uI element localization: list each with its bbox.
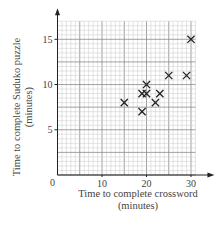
x-axis-unit: (minutes) [58, 200, 218, 212]
x-axis-title: Time to complete crossword [58, 188, 218, 200]
svg-text:0: 0 [50, 177, 55, 188]
y-axis-unit: (minutes) [23, 32, 35, 182]
y-axis-label: Time to complete Suduko puzzle (minutes) [11, 32, 35, 182]
svg-text:5: 5 [48, 124, 53, 135]
svg-text:15: 15 [43, 34, 53, 45]
y-axis-title: Time to complete Suduko puzzle [11, 32, 23, 182]
x-axis-label: Time to complete crossword (minutes) [58, 188, 218, 212]
grid [58, 21, 196, 175]
svg-text:10: 10 [43, 79, 53, 90]
